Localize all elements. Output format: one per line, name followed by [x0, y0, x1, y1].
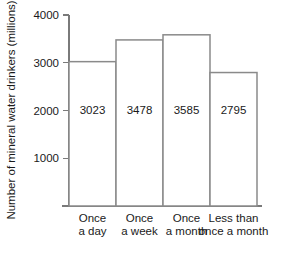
x-category-label-line: Once [126, 212, 154, 224]
category-labels-group: Oncea dayOncea weekOncea monthLess thano… [78, 212, 268, 237]
x-category-label-line: Once [173, 212, 201, 224]
y-tick-label: 3000 [33, 57, 59, 69]
x-category-label: Oncea day [78, 212, 106, 237]
bar [163, 35, 210, 206]
bar-value-label: 2795 [221, 104, 247, 116]
x-category-label-line: a day [78, 225, 106, 237]
y-axis-ticks: 1000200030004000 [33, 9, 69, 164]
bar [116, 40, 163, 206]
y-tick-label: 2000 [33, 105, 59, 117]
chart-canvas: Number of mineral water drinkers (millio… [0, 0, 290, 253]
x-category-label: Less thanonce a month [199, 212, 269, 237]
y-tick-label: 4000 [33, 9, 59, 21]
bar [69, 62, 116, 206]
bar [210, 73, 257, 206]
bar-chart: Number of mineral water drinkers (millio… [0, 0, 290, 253]
y-tick-label: 1000 [33, 152, 59, 164]
bars-group [69, 35, 257, 206]
x-category-label-line: a week [121, 225, 158, 237]
x-category-label-line: once a month [199, 225, 269, 237]
bar-value-label: 3478 [127, 104, 153, 116]
bar-value-label: 3023 [80, 104, 106, 116]
y-axis-title: Number of mineral water drinkers (millio… [5, 0, 17, 219]
x-category-label-line: Once [79, 212, 107, 224]
bar-value-label: 3585 [174, 104, 200, 116]
x-category-label: Oncea week [121, 212, 158, 237]
x-category-label-line: Less than [209, 212, 259, 224]
